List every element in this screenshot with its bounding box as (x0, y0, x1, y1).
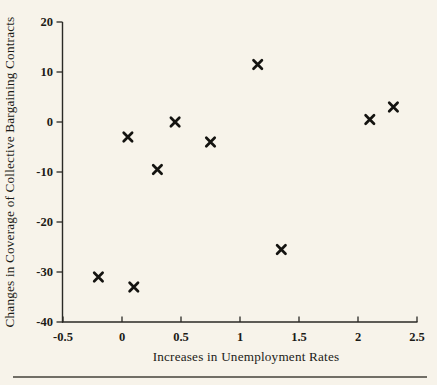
x-tick-label: 0.5 (173, 330, 189, 344)
data-point-x-marker (153, 165, 161, 173)
scatter-chart-svg: 20100-10-20-30-40 Changes in Coverage of… (0, 0, 437, 385)
x-axis-ticks (63, 317, 417, 323)
data-point-x-marker (171, 118, 179, 126)
y-axis: 20100-10-20-30-40 Changes in Coverage of… (2, 15, 63, 329)
y-tick-label: -10 (36, 165, 53, 179)
data-point-x-marker (206, 138, 214, 146)
data-point-x-marker (389, 103, 397, 111)
data-point-x-marker (130, 283, 138, 291)
data-point-x-marker (94, 273, 102, 281)
data-points (94, 60, 397, 291)
x-tick-label: 2.5 (409, 330, 425, 344)
x-axis-title: Increases in Unemployment Rates (153, 349, 340, 364)
data-point-x-marker (277, 245, 285, 253)
y-tick-label: 0 (47, 115, 53, 129)
data-point-x-marker (124, 133, 132, 141)
x-tick-label: 2 (355, 330, 361, 344)
y-axis-ticks (57, 22, 63, 322)
x-axis: -0.500.511.522.5 Increases in Unemployme… (53, 317, 425, 365)
data-point-x-marker (254, 60, 262, 68)
y-tick-label: 20 (41, 15, 54, 29)
x-axis-tick-labels: -0.500.511.522.5 (53, 330, 425, 344)
y-tick-label: -40 (36, 315, 53, 329)
y-tick-label: -30 (36, 265, 53, 279)
y-axis-tick-labels: 20100-10-20-30-40 (36, 15, 53, 329)
y-tick-label: -20 (36, 215, 53, 229)
y-tick-label: 10 (41, 65, 54, 79)
x-tick-label: 1.5 (291, 330, 307, 344)
x-tick-label: -0.5 (53, 330, 73, 344)
x-tick-label: 0 (119, 330, 125, 344)
y-axis-title: Changes in Coverage of Collective Bargai… (2, 17, 17, 328)
scatter-figure: 20100-10-20-30-40 Changes in Coverage of… (0, 0, 437, 385)
x-tick-label: 1 (237, 330, 243, 344)
data-point-x-marker (366, 115, 374, 123)
